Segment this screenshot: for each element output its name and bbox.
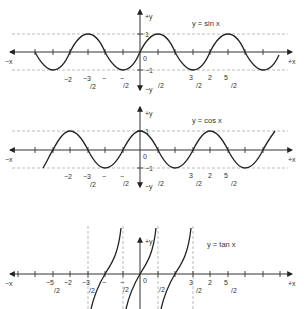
- svg-text:/2: /2: [231, 287, 237, 294]
- svg-text:−3: −3: [83, 173, 91, 180]
- svg-text:/2: /2: [231, 82, 237, 89]
- svg-text:3: 3: [189, 172, 193, 179]
- cos-pos-y-label: +y: [145, 110, 153, 118]
- sin-y-tick-neg1: −1: [145, 67, 153, 74]
- svg-text:−: −: [102, 173, 106, 180]
- svg-text:/2: /2: [90, 83, 96, 90]
- sin-title: y = sin x: [192, 19, 220, 28]
- sin-pos-y-label: +y: [145, 13, 153, 21]
- trig-graphs: −x +x +y −y 0 1 −1 y = sin x −2 −3/2 − −…: [0, 0, 304, 309]
- tan-branch-left: [91, 228, 121, 309]
- cos-y-tick-1: 1: [145, 128, 149, 135]
- svg-text:−: −: [102, 279, 106, 286]
- svg-text:−: −: [120, 279, 124, 286]
- svg-text:−5: −5: [46, 279, 54, 286]
- svg-text:2: 2: [208, 74, 212, 81]
- svg-text:/2: /2: [231, 180, 237, 187]
- svg-text:−: −: [120, 75, 124, 82]
- svg-text:−2: −2: [64, 76, 72, 83]
- svg-text:5: 5: [224, 279, 228, 286]
- svg-text:/2: /2: [54, 287, 60, 294]
- tan-pos-x-label: +x: [288, 280, 296, 287]
- svg-text:−3: −3: [82, 279, 90, 286]
- svg-text:2: 2: [208, 172, 212, 179]
- cos-panel: −x +x +y −y 0 1 −1 y = cos x −2 −3/2 − −…: [5, 107, 296, 191]
- svg-text:−: −: [120, 173, 124, 180]
- svg-text:/2: /2: [158, 82, 164, 89]
- svg-text:/2: /2: [196, 287, 202, 294]
- svg-text:/2: /2: [159, 286, 165, 293]
- sin-y-tick-1: 1: [145, 31, 149, 38]
- svg-text:/2: /2: [196, 82, 202, 89]
- svg-text:/2: /2: [123, 180, 129, 187]
- cos-pos-x-label: +x: [288, 156, 296, 163]
- tan-branch-right: [161, 228, 191, 309]
- svg-text:−2: −2: [64, 173, 72, 180]
- svg-text:/2: /2: [89, 287, 95, 294]
- svg-text:3: 3: [189, 279, 193, 286]
- svg-text:5: 5: [224, 74, 228, 81]
- svg-text:5: 5: [224, 172, 228, 179]
- tan-panel: −x +x +y 0 y = tan x −5/2 −2 −3/2 − −/2 …: [5, 226, 296, 309]
- sin-neg-x-label: −x: [5, 58, 13, 65]
- svg-text:−: −: [102, 75, 106, 82]
- svg-text:/2: /2: [158, 180, 164, 187]
- cos-origin-label: 0: [143, 153, 147, 160]
- cos-neg-y-label: −y: [145, 183, 153, 191]
- cos-y-tick-neg1: −1: [145, 165, 153, 172]
- tan-pos-y-label: +y: [145, 238, 153, 246]
- tan-origin-label: 0: [143, 277, 147, 284]
- svg-text:/2: /2: [90, 181, 96, 188]
- svg-text:2: 2: [208, 279, 212, 286]
- sin-panel: −x +x +y −y 0 1 −1 y = sin x −2 −3/2 − −…: [5, 10, 296, 94]
- sin-pos-x-label: +x: [288, 58, 296, 65]
- svg-text:/2: /2: [123, 286, 129, 293]
- svg-text:/2: /2: [196, 180, 202, 187]
- svg-text:−2: −2: [64, 279, 72, 286]
- cos-title: y = cos x: [192, 116, 222, 125]
- sin-origin-label: 0: [143, 55, 147, 62]
- cos-neg-x-label: −x: [5, 156, 13, 163]
- svg-text:−3: −3: [83, 75, 91, 82]
- tan-x-tick-labels: −5/2 −2 −3/2 − −/2 /2 3/2 2 5/2: [46, 279, 237, 294]
- tan-title: y = tan x: [207, 240, 236, 249]
- sin-neg-y-label: −y: [145, 86, 153, 94]
- svg-text:3: 3: [189, 74, 193, 81]
- svg-text:/2: /2: [123, 82, 129, 89]
- tan-neg-x-label: −x: [5, 280, 13, 287]
